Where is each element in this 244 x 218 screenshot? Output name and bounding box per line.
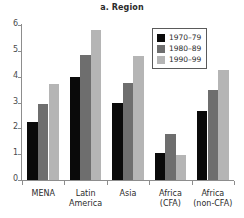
x-axis-tick-mark <box>22 181 23 185</box>
y-axis-tick-label: 2 <box>4 122 18 131</box>
legend-label: 1970–79 <box>169 33 201 42</box>
y-axis-tick-label: 4 <box>4 71 18 80</box>
bar <box>38 104 49 180</box>
y-axis-tick-label: 3 <box>4 97 18 106</box>
x-axis-tick-mark <box>107 181 108 185</box>
chart-title: a. Region <box>0 3 244 12</box>
bar <box>49 84 60 180</box>
bar <box>80 55 91 180</box>
bar <box>123 83 134 180</box>
y-axis-tick-label: 1 <box>4 148 18 157</box>
x-axis-tick-mark <box>192 181 193 185</box>
x-axis-category-label: Africa(non-CFA) <box>188 189 238 209</box>
bar <box>176 155 187 180</box>
legend-item[interactable]: 1990–99 <box>157 54 201 65</box>
bar <box>27 122 38 180</box>
bar <box>218 70 229 180</box>
y-axis-tick-label: 0 <box>4 174 18 183</box>
y-axis-tick: 0 <box>0 180 28 181</box>
x-axis-tick-mark <box>64 181 65 185</box>
y-axis-tick-mark <box>18 154 22 155</box>
x-axis-line <box>21 180 234 181</box>
x-axis-tick-mark <box>234 181 235 185</box>
bar <box>197 111 208 180</box>
bar <box>91 30 102 180</box>
bar <box>70 77 81 180</box>
y-axis-tick-label: 6 <box>4 19 18 28</box>
legend-swatch-1970-79-icon <box>157 34 165 42</box>
y-axis-tick: 6 <box>0 25 28 26</box>
y-axis-tick-mark <box>18 25 22 26</box>
bar <box>165 134 176 180</box>
bar <box>208 90 219 180</box>
y-axis-tick: 1 <box>0 154 28 155</box>
y-axis-tick-mark <box>18 103 22 104</box>
y-axis-tick: 4 <box>0 77 28 78</box>
bar <box>112 103 123 181</box>
y-axis-tick: 5 <box>0 51 28 52</box>
x-axis-tick-mark <box>149 181 150 185</box>
bar-chart-region: a. Region 0123456 MENALatinAmericaAsiaAf… <box>0 0 244 218</box>
legend-label: 1990–99 <box>169 55 201 64</box>
chart-legend: 1970–79 1980–89 1990–99 <box>152 28 207 69</box>
legend-item[interactable]: 1980–89 <box>157 43 201 54</box>
bar <box>133 56 144 180</box>
legend-item[interactable]: 1970–79 <box>157 32 201 43</box>
legend-swatch-1980-89-icon <box>157 45 165 53</box>
legend-swatch-1990-99-icon <box>157 56 165 64</box>
y-axis-tick: 2 <box>0 128 28 129</box>
y-axis-tick-mark <box>18 77 22 78</box>
y-axis-tick-mark <box>18 128 22 129</box>
legend-label: 1980–89 <box>169 44 201 53</box>
y-axis-tick: 3 <box>0 103 28 104</box>
y-axis-tick-label: 5 <box>4 45 18 54</box>
bar <box>155 153 166 180</box>
y-axis-tick-mark <box>18 51 22 52</box>
